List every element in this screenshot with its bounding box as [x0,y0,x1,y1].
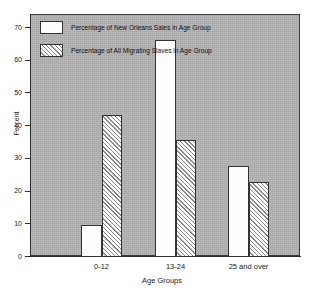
y-axis-line [30,14,31,257]
x-tick-label-13-24: 13-24 [136,262,216,271]
legend-swatch-solid [40,21,63,34]
y-tick-label-60: 60 [14,56,22,63]
y-tick-label-10: 10 [14,220,22,227]
bar-25-and-over-series-2 [249,182,270,257]
y-tick-label-20: 20 [14,187,22,194]
y-tick-label-30: 30 [14,154,22,161]
bar-25-and-over-series-1 [228,166,249,257]
x-tick-label-0-12: 0-12 [62,262,142,271]
legend-label-migrating-slaves: Percentage of All Migrating Slaves in Ag… [71,47,212,55]
bar-chart: 010203040506070 Percent 0-1213-2425 and … [0,0,324,295]
legend-label-new-orleans-sales: Percentage of New Orleans Sales in Age G… [71,24,211,32]
y-tick-40 [25,125,30,126]
y-tick-50 [25,92,30,93]
y-tick-label-70: 70 [14,24,22,31]
bar-0-12-series-1 [81,225,102,257]
y-tick-70 [25,27,30,28]
y-tick-10 [25,223,30,224]
y-tick-label-0: 0 [18,253,22,260]
x-axis-label: Age Groups [0,276,324,285]
y-axis-label: Percent [13,94,20,154]
y-tick-60 [25,60,30,61]
bar-13-24-series-1 [155,40,176,257]
x-tick-label-25-and-over: 25 and over [209,262,289,271]
y-tick-20 [25,191,30,192]
bar-0-12-series-2 [102,115,123,257]
y-tick-0 [25,256,30,257]
bar-13-24-series-2 [176,140,197,257]
legend-swatch-hatched [40,44,63,57]
y-tick-30 [25,158,30,159]
